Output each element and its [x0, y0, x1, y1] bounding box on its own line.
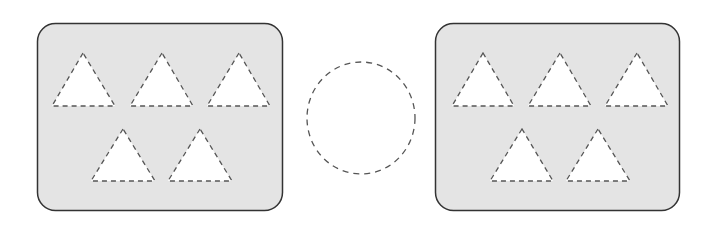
- right-panel: [436, 24, 680, 211]
- left-panel: [38, 24, 283, 211]
- dashed-ellipse: [307, 62, 415, 174]
- diagram-canvas: [0, 0, 714, 234]
